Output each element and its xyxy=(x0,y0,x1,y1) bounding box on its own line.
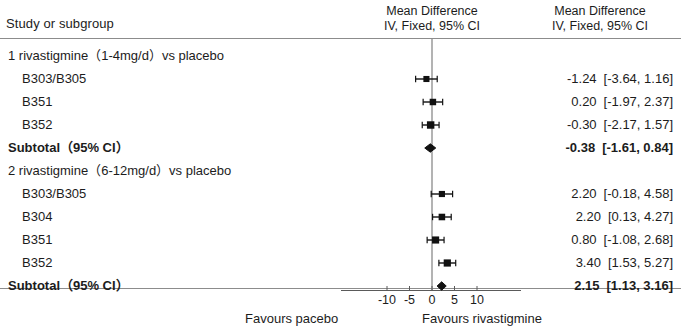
plot-header-line2: IV, Fixed, 95% CI xyxy=(343,19,521,34)
effect-estimate: 3.40 xyxy=(563,256,601,270)
values-header-line1: Mean Difference xyxy=(520,4,680,19)
subtotal-effect-value: -0.38[-1.61, 0.84] xyxy=(513,141,673,155)
column-header-values: Mean Difference IV, Fixed, 95% CI xyxy=(520,4,680,34)
confidence-interval: [-1.61, 0.84] xyxy=(602,141,673,155)
favours-left-label: Favours pacebo xyxy=(245,311,338,326)
effect-estimate: 2.15 xyxy=(562,279,600,293)
study-label: B304 xyxy=(22,210,52,224)
favours-right-label: Favours rivastigmine xyxy=(422,311,542,326)
x-tick-5: 5 xyxy=(451,293,458,307)
effect-estimate: -1.24 xyxy=(559,72,597,86)
subgroup-heading-2: 2 rivastigmine（6-12mg/d）vs placebo xyxy=(8,164,231,178)
effect-estimate: -0.38 xyxy=(557,141,595,155)
study-label: B352 xyxy=(22,256,52,270)
x-tick-0: 0 xyxy=(429,293,436,307)
study-effect-value: 2.20[0.13, 4.27] xyxy=(513,210,673,224)
effect-estimate: 2.20 xyxy=(559,187,597,201)
effect-estimate: 2.20 xyxy=(563,210,601,224)
confidence-interval: [1.13, 3.16] xyxy=(607,279,674,293)
effect-estimate: 0.80 xyxy=(559,233,597,247)
study-effect-value: -0.30[-2.17, 1.57] xyxy=(513,118,673,132)
confidence-interval: [-0.18, 4.58] xyxy=(604,187,673,201)
values-header-line2: IV, Fixed, 95% CI xyxy=(520,19,680,34)
confidence-interval: [1.53, 5.27] xyxy=(608,256,673,270)
x-tick-neg10: -10 xyxy=(378,293,396,307)
subtotal-label: Subtotal（95% CI） xyxy=(8,279,129,293)
confidence-interval: [-2.17, 1.57] xyxy=(604,118,673,132)
subtotal-effect-value: 2.15[1.13, 3.16] xyxy=(513,279,673,293)
study-label: B303/B305 xyxy=(22,72,86,86)
subgroup-heading-1: 1 rivastigmine（1-4mg/d）vs placebo xyxy=(8,49,224,63)
column-header-study: Study or subgroup xyxy=(6,16,114,31)
study-label: B351 xyxy=(22,233,52,247)
confidence-interval: [-1.97, 2.37] xyxy=(604,95,673,109)
study-effect-value: 0.20[-1.97, 2.37] xyxy=(513,95,673,109)
confidence-interval: [-1.08, 2.68] xyxy=(604,233,673,247)
study-label: B352 xyxy=(22,118,52,132)
confidence-interval: [-3.64, 1.16] xyxy=(604,72,673,86)
x-tick-neg5: -5 xyxy=(404,293,415,307)
effect-estimate: -0.30 xyxy=(559,118,597,132)
column-header-plot: Mean Difference IV, Fixed, 95% CI xyxy=(343,4,521,34)
header-divider xyxy=(0,38,681,39)
subtotal-label: Subtotal（95% CI） xyxy=(8,141,129,155)
confidence-interval: [0.13, 4.27] xyxy=(608,210,673,224)
study-effect-value: 2.20[-0.18, 4.58] xyxy=(513,187,673,201)
study-effect-value: -1.24[-3.64, 1.16] xyxy=(513,72,673,86)
plot-header-line1: Mean Difference xyxy=(343,4,521,19)
study-effect-value: 3.40[1.53, 5.27] xyxy=(513,256,673,270)
x-tick-10: 10 xyxy=(470,293,484,307)
effect-estimate: 0.20 xyxy=(559,95,597,109)
study-label: B303/B305 xyxy=(22,187,86,201)
study-label: B351 xyxy=(22,95,52,109)
study-effect-value: 0.80[-1.08, 2.68] xyxy=(513,233,673,247)
